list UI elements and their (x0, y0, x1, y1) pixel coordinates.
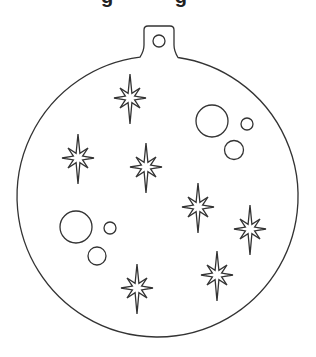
star-icon (121, 264, 153, 314)
star-icon (201, 251, 233, 301)
hanger-hole (153, 35, 165, 47)
star-icon (114, 74, 146, 124)
star-icon (62, 134, 94, 184)
bubble-circle (104, 222, 116, 234)
star-icon (182, 183, 214, 233)
bubble-circle (241, 118, 253, 130)
ornament-illustration (0, 0, 316, 357)
ornament-body-outline (17, 26, 298, 337)
circles-group (60, 105, 253, 265)
star-icon (130, 143, 162, 193)
bubble-circle (225, 141, 244, 160)
bubble-circle (88, 247, 106, 265)
stars-group (62, 74, 266, 314)
bubble-circle (196, 105, 228, 137)
star-icon (234, 205, 266, 255)
bubble-circle (60, 211, 92, 243)
